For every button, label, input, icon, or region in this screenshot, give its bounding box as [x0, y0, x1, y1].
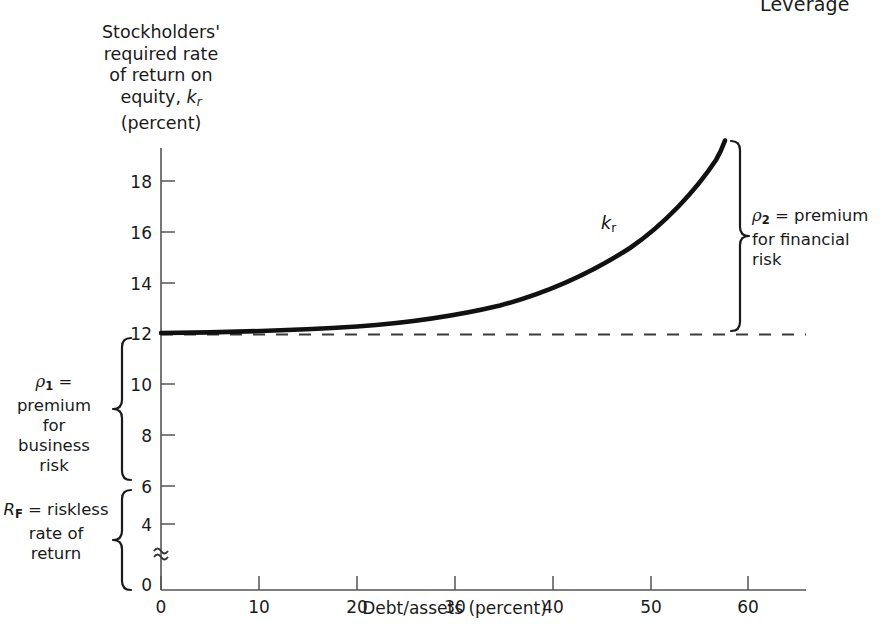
brace-rho2 — [731, 141, 749, 331]
y-tick-label-12: 12 — [112, 324, 152, 344]
y-tick-label-0: 0 — [112, 575, 152, 595]
chart-figure: Leverage Stockholders' required rate of … — [0, 0, 883, 624]
y-tick-label-6: 6 — [112, 477, 152, 497]
y-tick-label-14: 14 — [112, 274, 152, 294]
curve-kr — [161, 141, 725, 334]
y-tick-label-10: 10 — [112, 375, 152, 395]
y-tick-label-16: 16 — [112, 223, 152, 243]
x-tick-label-10: 10 — [239, 597, 279, 617]
x-tick-label-50: 50 — [631, 597, 671, 617]
x-tick-label-60: 60 — [728, 597, 768, 617]
y-tick-label-4: 4 — [112, 515, 152, 535]
brace-rho1 — [113, 338, 131, 480]
x-tick-label-40: 40 — [533, 597, 573, 617]
x-tick-label-0: 0 — [141, 597, 181, 617]
y-tick-label-8: 8 — [112, 426, 152, 446]
x-tick-label-30: 30 — [435, 597, 475, 617]
y-tick-label-18: 18 — [112, 172, 152, 192]
x-tick-marks — [161, 576, 748, 590]
y-tick-marks — [161, 181, 175, 524]
x-tick-label-20: 20 — [337, 597, 377, 617]
